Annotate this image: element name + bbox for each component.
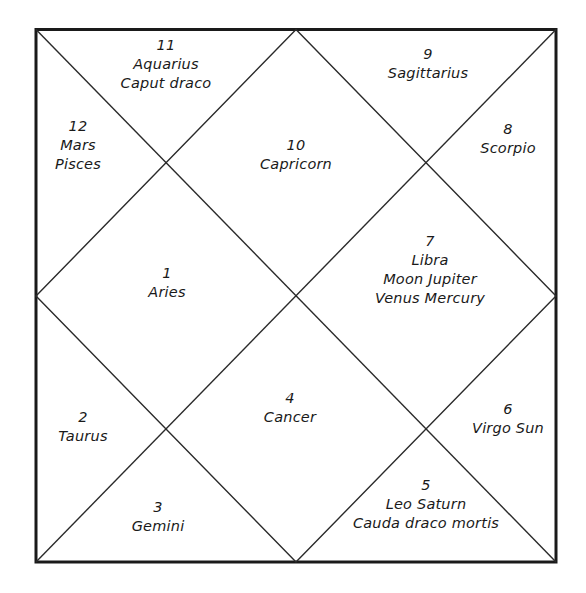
house-number: 2 [58, 408, 107, 427]
house-text: Sagittarius [388, 64, 469, 83]
house-text: Mars [55, 136, 101, 155]
house-number: 7 [375, 232, 485, 251]
house-3: 3 Gemini [132, 498, 185, 536]
house-8: 8 Scorpio [480, 120, 536, 158]
house-1: 1 Aries [148, 264, 185, 302]
house-5: 5 Leo Saturn Cauda draco mortis [353, 476, 499, 533]
house-text: Virgo Sun [472, 419, 544, 438]
house-2: 2 Taurus [58, 408, 107, 446]
house-text: Venus Mercury [375, 289, 485, 308]
house-number: 8 [480, 120, 536, 139]
house-text: Moon Jupiter [375, 270, 485, 289]
house-number: 10 [260, 136, 332, 155]
house-text: Taurus [58, 427, 107, 446]
house-number: 6 [472, 400, 544, 419]
house-text: Cancer [264, 408, 316, 427]
house-11: 11 Aquarius Caput draco [121, 36, 212, 93]
house-6: 6 Virgo Sun [472, 400, 544, 438]
house-text: Capricorn [260, 155, 332, 174]
house-text: Pisces [55, 155, 101, 174]
house-7: 7 Libra Moon Jupiter Venus Mercury [375, 232, 485, 308]
house-number: 12 [55, 117, 101, 136]
house-4: 4 Cancer [264, 389, 316, 427]
house-text: Aquarius [121, 55, 212, 74]
house-text: Scorpio [480, 139, 536, 158]
house-text: Libra [375, 251, 485, 270]
house-text: Gemini [132, 517, 185, 536]
house-text: Aries [148, 283, 185, 302]
house-text: Caput draco [121, 74, 212, 93]
house-number: 11 [121, 36, 212, 55]
house-12: 12 Mars Pisces [55, 117, 101, 174]
house-number: 5 [353, 476, 499, 495]
house-number: 1 [148, 264, 185, 283]
house-number: 9 [388, 45, 469, 64]
house-text: Cauda draco mortis [353, 514, 499, 533]
house-text: Leo Saturn [353, 495, 499, 514]
house-number: 3 [132, 498, 185, 517]
house-10: 10 Capricorn [260, 136, 332, 174]
house-number: 4 [264, 389, 316, 408]
house-9: 9 Sagittarius [388, 45, 469, 83]
